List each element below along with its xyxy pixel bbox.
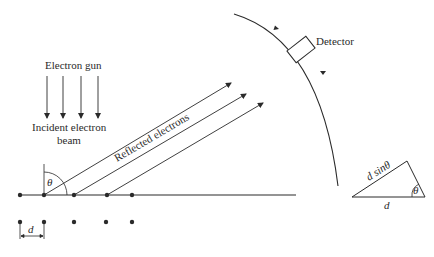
incident-beam-label-line2: beam xyxy=(57,134,81,146)
atom-icon xyxy=(105,193,109,197)
atom-icon xyxy=(104,220,108,224)
lattice-bottom-row xyxy=(18,220,134,224)
atom-icon xyxy=(130,193,134,197)
reflected-electrons-label: Reflected electrons xyxy=(112,110,191,163)
detector-label: Detector xyxy=(316,35,354,47)
incident-beam-label-line1: Incident electron xyxy=(32,121,107,133)
arc-direction-arrow-icon xyxy=(320,71,326,75)
incident-beam-arrows xyxy=(47,76,98,118)
triangle-hypotenuse-label: d sinθ xyxy=(364,158,393,183)
spacing-d-label: d xyxy=(28,223,34,235)
atom-icon xyxy=(72,220,76,224)
detector-box xyxy=(287,36,315,63)
atom-icon xyxy=(130,220,134,224)
reflected-ray-icon xyxy=(74,94,246,195)
electron-gun-label: Electron gun xyxy=(45,59,102,71)
arc-direction-arrow-icon xyxy=(274,26,280,31)
triangle-theta-label: θ xyxy=(413,184,419,196)
electron-diffraction-diagram: Electron gun Incident electron beam θ Re… xyxy=(0,0,434,257)
atom-icon xyxy=(18,193,22,197)
triangle-base-label: d xyxy=(384,199,390,211)
atom-icon xyxy=(42,193,46,197)
theta-label: θ xyxy=(47,176,53,188)
atom-icon xyxy=(72,193,76,197)
